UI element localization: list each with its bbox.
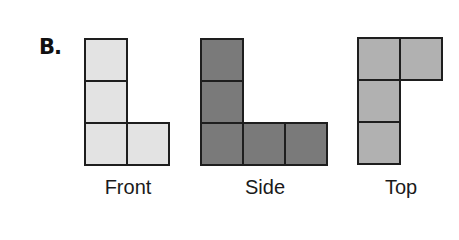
top-view-cell — [357, 121, 401, 165]
front-caption: Front — [84, 176, 172, 199]
problem-label: B. — [39, 35, 61, 59]
front-view-cell — [84, 122, 128, 166]
front-view-cell — [84, 38, 128, 82]
top-view-cell — [399, 37, 443, 81]
side-view-cell — [284, 122, 328, 166]
front-view-cell — [84, 80, 128, 124]
side-view-cell — [200, 80, 244, 124]
side-view-cell — [200, 122, 244, 166]
front-view-cell — [126, 122, 170, 166]
top-caption: Top — [357, 176, 445, 199]
side-caption: Side — [200, 176, 330, 199]
side-view-cell — [200, 38, 244, 82]
side-view-cell — [242, 122, 286, 166]
top-view-cell — [357, 37, 401, 81]
top-view-cell — [357, 79, 401, 123]
